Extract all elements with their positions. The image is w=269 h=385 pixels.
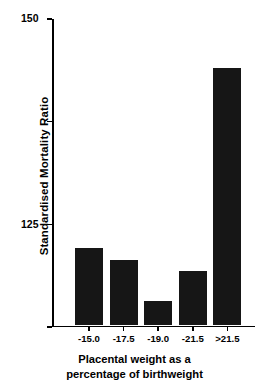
y-tick-mark: 100 <box>47 224 53 226</box>
y-tick-label: 125 <box>21 218 39 230</box>
x-axis-title: Placental weight as a percentage of birt… <box>0 352 269 381</box>
x-tick-mark <box>123 327 125 331</box>
plot-area: 75100125150 -15.0-17.5-19.0-21.5>21.5 <box>52 19 255 327</box>
x-tick-label: >21.5 <box>215 333 239 344</box>
x-tick-mark <box>227 327 229 331</box>
bar <box>110 260 138 325</box>
y-tick-mark: 125 <box>47 121 53 123</box>
x-tick-mark <box>157 327 159 331</box>
bar <box>179 271 207 326</box>
bar <box>213 68 241 325</box>
x-tick-label: -19.0 <box>147 333 169 344</box>
x-tick-label: -15.0 <box>78 333 100 344</box>
x-tick-mark <box>192 327 194 331</box>
y-tick-mark: 150 <box>47 18 53 20</box>
y-axis-line <box>52 19 54 327</box>
bar <box>144 301 172 325</box>
x-axis-line <box>52 326 255 328</box>
bar <box>75 248 103 325</box>
x-axis-title-line-1: Placental weight as a <box>0 352 269 367</box>
x-tick-label: -21.5 <box>182 333 204 344</box>
x-tick-label: -17.5 <box>113 333 135 344</box>
bar-chart-figure: Standardised Mortality Ratio 75100125150… <box>0 0 269 385</box>
x-tick-mark <box>88 327 90 331</box>
y-tick-label: 150 <box>21 12 39 24</box>
y-tick-mark: 75 <box>47 326 53 328</box>
y-axis-title: Standardised Mortality Ratio <box>38 46 50 306</box>
x-axis-title-line-2: percentage of birthweight <box>0 367 269 382</box>
